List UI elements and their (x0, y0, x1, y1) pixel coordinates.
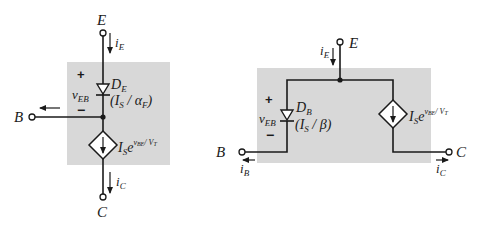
left-e-label: E (96, 12, 106, 28)
left-ie-label: iE (115, 35, 125, 52)
left-ic-label: iC (116, 174, 127, 191)
right-ic-label: iC (436, 161, 447, 178)
right-b-terminal (239, 149, 245, 155)
right-ib-label: iB (240, 161, 250, 178)
left-b-label: B (14, 109, 23, 125)
right-e-node (337, 77, 342, 82)
left-b-node (100, 114, 105, 119)
left-e-terminal (100, 30, 106, 36)
right-e-label: E (348, 35, 358, 51)
left-c-label: C (97, 204, 108, 220)
right-diode-param: (IS / β) (295, 117, 332, 134)
right-model: E iE DB (IS / β) + vEB − B iB ISevBE/ VT (216, 35, 467, 178)
right-b-label: B (216, 144, 225, 160)
right-c-terminal (446, 149, 452, 155)
right-veb-plus: + (265, 92, 273, 107)
left-c-terminal (100, 194, 106, 200)
left-veb-plus: + (77, 67, 85, 82)
right-c-label: C (456, 144, 467, 160)
left-veb-minus: − (77, 102, 85, 118)
right-e-terminal (337, 39, 343, 45)
bjt-models-diagram: E iE DE (IS / αF) + vEB − B ISevBE/ VT i… (0, 0, 480, 230)
right-veb-minus: − (266, 127, 274, 143)
left-model: E iE DE (IS / αF) + vEB − B ISevBE/ VT i… (14, 12, 170, 220)
right-ie-label: iE (320, 43, 330, 60)
left-b-terminal (29, 114, 35, 120)
